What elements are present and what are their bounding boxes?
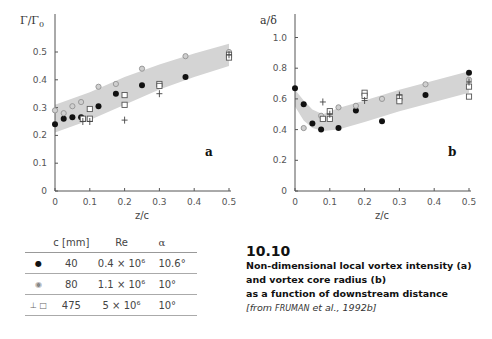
y-axis-label: a/δ <box>260 14 277 27</box>
data-point-cross <box>156 90 162 97</box>
legend-alpha-value: 10° <box>152 279 197 290</box>
data-point-filled-circle <box>423 92 429 98</box>
y-tick-label: 0.4 <box>33 75 48 85</box>
legend-header-row: c [mm] Re α <box>25 232 197 253</box>
gray-circle-icon: ◉ <box>25 280 52 289</box>
panel-label: b <box>448 145 456 159</box>
data-point-square <box>122 92 127 97</box>
y-axis-label: Γ/Γ0 <box>20 14 44 29</box>
data-point-filled-circle <box>52 121 58 127</box>
panel-b: 00.10.20.30.40.500.20.40.60.81.0z/ca/δb <box>260 14 476 221</box>
data-point-filled-circle <box>309 120 315 126</box>
data-point-filled-circle <box>183 74 189 80</box>
legend-header-c: c [mm] <box>52 237 91 248</box>
panel-a: 00.10.20.30.40.500.10.20.30.40.5z/cΓ/Γ0a <box>20 14 236 221</box>
y-tick-label: 0.8 <box>273 63 288 73</box>
y-tick-label: 0.2 <box>273 155 287 165</box>
legend-header-re: Re <box>91 237 153 248</box>
y-tick-label: 0.3 <box>33 103 47 113</box>
y-axis-label-subscript: 0 <box>39 20 44 29</box>
legend-c-value: 475 <box>52 300 91 311</box>
y-tick-label: 0 <box>41 186 47 196</box>
caption-line: as a function of downstream distance <box>246 287 492 301</box>
legend-alpha-value: 10.6° <box>152 258 197 269</box>
data-point-filled-circle <box>318 127 324 133</box>
source-prefix: [from <box>246 302 275 313</box>
legend-re-value: 1.1 × 10⁶ <box>91 279 153 290</box>
legend-row: ◉ 80 1.1 × 10⁶ 10° <box>25 274 197 295</box>
data-point-filled-circle <box>301 101 307 107</box>
y-tick-label: 1.0 <box>273 33 288 43</box>
x-tick-label: 0.1 <box>323 197 337 207</box>
y-tick-label: 0.1 <box>33 158 47 168</box>
data-point-filled-circle <box>292 85 298 91</box>
x-tick-label: 0 <box>52 197 58 207</box>
data-point-gray-circle <box>70 104 75 109</box>
data-point-filled-circle <box>336 125 342 131</box>
x-tick-label: 0 <box>292 197 298 207</box>
y-tick-label: 0 <box>281 186 287 196</box>
caption-line: Non-dimensional local vortex intensity (… <box>246 259 492 273</box>
y-tick-label: 0.6 <box>273 94 288 104</box>
data-point-filled-circle <box>466 70 472 76</box>
cross-square-icon: ⊥ □ <box>25 301 52 310</box>
legend-c-value: 80 <box>52 279 91 290</box>
data-point-filled-circle <box>113 91 119 97</box>
legend-table: c [mm] Re α ● 40 0.4 × 10⁶ 10.6° ◉ 80 1.… <box>25 232 197 316</box>
x-tick-label: 0.3 <box>152 197 166 207</box>
data-point-square <box>466 94 471 99</box>
data-point-filled-circle <box>139 82 145 88</box>
x-tick-label: 0.2 <box>357 197 371 207</box>
data-point-gray-circle <box>52 108 57 113</box>
source-author: Fruman <box>275 304 309 313</box>
legend-re-value: 0.4 × 10⁶ <box>91 258 153 269</box>
x-tick-label: 0.2 <box>117 197 131 207</box>
legend-re-value: 5 × 10⁶ <box>91 300 153 311</box>
legend-header-alpha: α <box>152 237 197 248</box>
data-point-gray-circle <box>139 66 144 71</box>
y-tick-label: 0.4 <box>273 125 288 135</box>
caption-line: and vortex core radius (b) <box>246 273 492 287</box>
x-tick-label: 0.5 <box>462 197 476 207</box>
x-tick-label: 0.1 <box>83 197 97 207</box>
x-tick-label: 0.4 <box>187 197 202 207</box>
data-point-cross <box>122 117 128 124</box>
data-point-gray-circle <box>79 99 84 104</box>
data-point-gray-circle <box>353 103 358 108</box>
data-point-gray-circle <box>379 96 384 101</box>
y-tick-label: 0.2 <box>33 130 47 140</box>
data-point-gray-circle <box>113 81 118 86</box>
data-point-gray-circle <box>96 84 101 89</box>
x-axis-label: z/c <box>375 210 389 221</box>
source-suffix: et al., 1992b] <box>309 302 376 313</box>
panel-label: a <box>205 145 213 159</box>
x-tick-label: 0.3 <box>392 197 406 207</box>
data-point-square <box>157 83 162 88</box>
x-tick-label: 0.4 <box>427 197 442 207</box>
y-tick-label: 0.5 <box>33 47 47 57</box>
x-axis-label: z/c <box>135 210 149 221</box>
data-point-square <box>122 102 127 107</box>
figure-caption: 10.10 Non-dimensional local vortex inten… <box>246 243 492 316</box>
data-point-gray-circle <box>183 54 188 59</box>
legend-c-value: 40 <box>52 258 91 269</box>
data-point-square <box>397 99 402 104</box>
data-point-gray-circle <box>423 82 428 87</box>
data-point-filled-circle <box>96 103 102 109</box>
data-point-gray-circle <box>336 105 341 110</box>
data-point-square <box>320 116 325 121</box>
data-point-filled-circle <box>379 118 385 124</box>
legend-alpha-value: 10° <box>152 300 197 311</box>
caption-source: [from Fruman et al., 1992b] <box>246 301 492 316</box>
data-point-gray-circle <box>301 125 306 130</box>
data-point-filled-circle <box>61 116 67 122</box>
figure-number: 10.10 <box>246 243 492 259</box>
filled-circle-icon: ● <box>25 259 52 268</box>
legend-row: ● 40 0.4 × 10⁶ 10.6° <box>25 253 197 274</box>
data-point-gray-circle <box>61 111 66 116</box>
legend-row: ⊥ □ 475 5 × 10⁶ 10° <box>25 295 197 316</box>
chart-canvas: 00.10.20.30.40.500.10.20.30.40.5z/cΓ/Γ0a… <box>0 0 492 230</box>
x-tick-label: 0.5 <box>222 197 236 207</box>
data-point-cross <box>320 98 326 105</box>
data-point-filled-circle <box>69 114 75 120</box>
